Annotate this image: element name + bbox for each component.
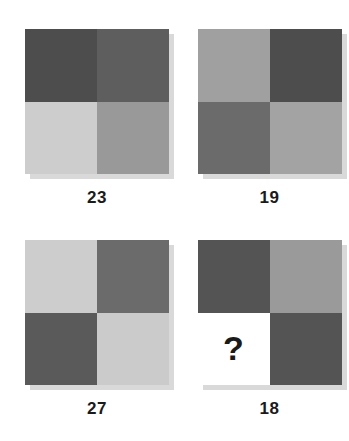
card-27[interactable] (25, 240, 169, 385)
card-quadrants (25, 240, 169, 385)
quadrant-top-right[interactable] (270, 240, 342, 313)
card-slot-2: 19 (174, 0, 349, 212)
card-quadrants (198, 29, 342, 174)
card-18[interactable]: ? (198, 240, 342, 385)
quadrant-top-left[interactable] (198, 240, 270, 313)
card-slot-3: 27 (0, 212, 174, 441)
card-23[interactable] (25, 29, 169, 174)
quadrant-bottom-right[interactable] (270, 313, 342, 386)
card-label-2: 19 (260, 188, 280, 208)
card-label-4: 18 (260, 399, 280, 419)
quadrant-top-right[interactable] (270, 29, 342, 102)
quadrant-bottom-left[interactable] (25, 313, 97, 386)
quadrant-bottom-right[interactable] (270, 102, 342, 175)
card-19[interactable] (198, 29, 342, 174)
quadrant-bottom-left-missing[interactable]: ? (198, 313, 270, 386)
quadrant-top-left[interactable] (25, 29, 97, 102)
card-label-1: 23 (87, 188, 107, 208)
card-slot-4: ? 18 (174, 212, 349, 441)
quadrant-bottom-right[interactable] (97, 313, 169, 386)
quadrant-bottom-right[interactable] (97, 102, 169, 175)
question-mark: ? (223, 331, 244, 367)
puzzle-grid: 23 19 (0, 0, 349, 441)
card-quadrants: ? (198, 240, 342, 385)
quadrant-top-right[interactable] (97, 240, 169, 313)
card-slot-1: 23 (0, 0, 174, 212)
quadrant-top-left[interactable] (25, 240, 97, 313)
quadrant-top-right[interactable] (97, 29, 169, 102)
quadrant-bottom-left[interactable] (198, 102, 270, 175)
card-label-3: 27 (87, 399, 107, 419)
card-quadrants (25, 29, 169, 174)
quadrant-top-left[interactable] (198, 29, 270, 102)
quadrant-bottom-left[interactable] (25, 102, 97, 175)
